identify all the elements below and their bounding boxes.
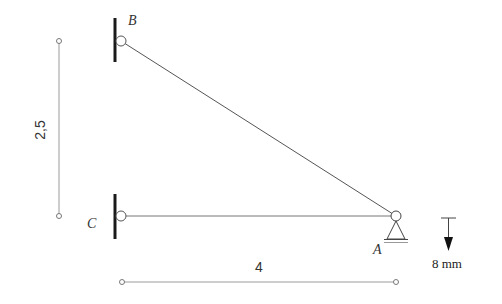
member-BA [121, 41, 396, 216]
horizontal-dimension-label: 4 [255, 259, 263, 275]
node-label-C: C [87, 216, 97, 231]
wall-support-B [115, 18, 126, 62]
displacement-arrow [441, 218, 456, 251]
wall-support-C [115, 194, 126, 239]
vertical-dimension [57, 39, 62, 219]
node-label-B: B [128, 13, 137, 28]
displacement-label: 8 mm [432, 256, 462, 271]
node-label-A: A [372, 242, 382, 257]
truss-diagram: B C A 2,5 4 8 mm [0, 0, 502, 304]
horizontal-dimension [120, 280, 399, 285]
vertical-dimension-label: 2,5 [32, 120, 48, 140]
